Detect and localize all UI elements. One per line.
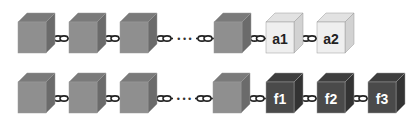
chain-link-icon: [53, 96, 69, 101]
block-gray-3: [120, 73, 157, 113]
ellipsis: • • •: [177, 94, 191, 104]
block-label: a1: [272, 31, 288, 47]
block-f1: f1: [266, 73, 303, 113]
chain-link-icon: [196, 36, 214, 41]
blockchain-fork-diagram: • • •a1a2• • •f1f2f3: [0, 0, 417, 125]
chain-link-icon: [195, 96, 213, 101]
chain-link-icon: [301, 36, 317, 41]
chain-link-icon: [249, 36, 266, 41]
chain-link-icon: [352, 96, 368, 101]
chain-link-icon: [155, 96, 173, 101]
bottom-chain: • • •f1f2f3: [18, 73, 405, 113]
block-gray-2: [69, 73, 106, 113]
chain-link-icon: [248, 96, 266, 101]
top-chain: • • •a1a2: [18, 13, 354, 53]
chain-link-icon: [104, 36, 120, 41]
block-gray-2: [69, 13, 106, 53]
block-gray-4: [213, 73, 250, 113]
block-f2: f2: [317, 73, 354, 113]
block-label: a2: [323, 31, 339, 47]
block-f3: f3: [368, 73, 405, 113]
block-label: f2: [325, 91, 338, 107]
chain-link-icon: [155, 36, 173, 41]
block-a1: a1: [266, 13, 303, 53]
chains-layer: • • •a1a2• • •f1f2f3: [18, 13, 405, 113]
block-gray-3: [120, 13, 157, 53]
chain-link-icon: [104, 96, 120, 101]
ellipsis: • • •: [177, 34, 191, 44]
block-gray-1: [18, 13, 55, 53]
block-label: f1: [274, 91, 287, 107]
block-label: f3: [376, 91, 389, 107]
chain-link-icon: [53, 36, 69, 41]
block-gray-1: [18, 73, 55, 113]
block-gray-4: [214, 13, 251, 53]
block-a2: a2: [317, 13, 354, 53]
chain-link-icon: [301, 96, 317, 101]
